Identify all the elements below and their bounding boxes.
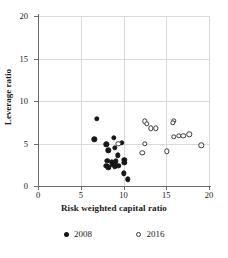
data-point-2016 xyxy=(142,141,147,146)
legend-label: 2016 xyxy=(146,230,164,239)
data-point-2016 xyxy=(187,131,192,136)
legend-item-2016[interactable]: 2016 xyxy=(136,230,164,239)
data-point-2016 xyxy=(170,120,175,125)
y-tick-label: 5 xyxy=(14,139,28,149)
data-point-2008 xyxy=(111,135,116,140)
gridline-vertical xyxy=(166,16,167,186)
x-tick-label: 5 xyxy=(71,190,91,200)
gridline-vertical xyxy=(81,16,82,186)
x-tick-label: 15 xyxy=(156,190,176,200)
data-point-2008 xyxy=(121,171,126,176)
x-tick-label: 20 xyxy=(199,190,219,200)
x-axis-label: Risk weighted capital ratio xyxy=(0,203,228,213)
data-point-2008 xyxy=(125,176,130,181)
open-circle-icon xyxy=(136,232,141,237)
x-tick-label: 10 xyxy=(114,190,134,200)
data-point-2008 xyxy=(92,137,97,142)
y-tick-mark xyxy=(34,144,38,145)
data-point-2016 xyxy=(164,148,169,153)
legend-label: 2008 xyxy=(74,230,92,239)
y-tick-mark xyxy=(34,16,38,17)
data-point-2008 xyxy=(94,116,99,121)
data-point-2016 xyxy=(153,125,158,130)
legend-item-2008[interactable]: 2008 xyxy=(64,230,92,239)
data-point-2016 xyxy=(181,133,186,138)
y-tick-label: 15 xyxy=(14,54,28,64)
y-tick-mark xyxy=(34,101,38,102)
data-point-2008 xyxy=(122,160,127,165)
data-point-2008 xyxy=(112,145,117,150)
data-point-2016 xyxy=(116,141,121,146)
data-point-2008 xyxy=(116,163,121,168)
y-tick-label: 0 xyxy=(14,181,28,191)
y-axis-line xyxy=(38,14,39,187)
chart-legend: 20082016 xyxy=(0,230,228,239)
data-point-2008 xyxy=(105,148,110,153)
filled-circle-icon xyxy=(64,232,69,237)
y-tick-label: 20 xyxy=(14,11,28,21)
y-axis-label: Leverage ratio xyxy=(3,37,13,157)
plot-area xyxy=(38,16,209,186)
y-tick-label: 10 xyxy=(14,96,28,106)
x-tick-label: 0 xyxy=(28,190,48,200)
gridline-vertical xyxy=(209,16,210,186)
data-point-2008 xyxy=(115,153,120,158)
data-point-2016 xyxy=(199,142,204,147)
scatter-chart-figure: 05101520 05101520 Risk weighted capital … xyxy=(0,0,228,258)
data-point-2008 xyxy=(104,142,109,147)
y-tick-mark xyxy=(34,59,38,60)
data-point-2016 xyxy=(140,150,145,155)
